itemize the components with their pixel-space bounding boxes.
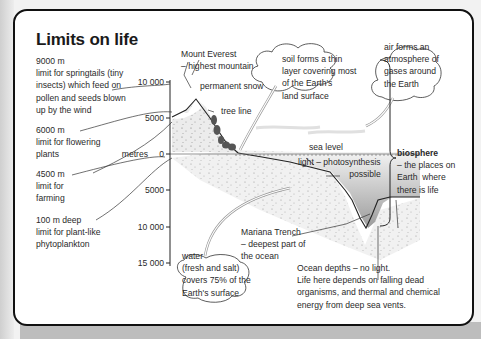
label-line: possible [298, 168, 381, 180]
label-tree-line: tree line [221, 105, 252, 117]
note-line: limit for springtails (tiny [36, 67, 126, 79]
note-line: limit for flowering [36, 136, 100, 148]
note-line: farming [36, 192, 65, 204]
axis-unit: metres [122, 149, 148, 159]
bubble-line: layer covering most [282, 65, 357, 77]
bubble-line: of the Earth's [282, 77, 357, 89]
definition-line: Earth where [397, 171, 455, 183]
bubble-line: atmosphere of [384, 53, 439, 65]
note-heading: 6000 m [36, 124, 100, 136]
note-heading: 100 m deep [36, 214, 100, 226]
axis-tick-5000-up: 5000 [145, 113, 164, 123]
bubble-water: water (fresh and salt) covers 75% of the… [182, 250, 251, 299]
note-line: up by the wind [36, 104, 126, 116]
bubble-air: air forms an atmosphere of gases around … [384, 41, 439, 90]
note-heading: 4500 m [36, 168, 65, 180]
bubble-line: gases around [384, 65, 439, 77]
label-line: – highest mountain [181, 60, 254, 72]
label-sea-level: sea level [309, 141, 343, 153]
label-permanent-snow: permanent snow [200, 80, 264, 92]
note-line: insects) which feed on [36, 79, 126, 91]
bubble-line: water [182, 250, 251, 262]
axis-tick-10000-down: 10 000 [138, 222, 164, 232]
label-line: Mount Everest [181, 48, 254, 60]
label-line: Mariana Trench [241, 226, 306, 238]
label-line: – deepest part of [241, 238, 306, 250]
label-line: Ocean depths – no light. [297, 262, 440, 274]
note-4500m: 4500 m limit for farming [36, 168, 65, 205]
label-mount-everest: Mount Everest – highest mountain [181, 48, 254, 72]
bubble-line: Earth's surface [182, 287, 251, 299]
label-line: organisms, and thermal and chemical [297, 286, 440, 298]
note-6000m: 6000 m limit for flowering plants [36, 124, 100, 161]
label-line: Life here depends on falling dead [297, 274, 440, 286]
biosphere-term: biosphere [397, 147, 455, 159]
definition-line: – the places on [397, 159, 455, 171]
label-line: energy from deep sea vents. [297, 299, 440, 311]
label-line: light – photosynthesis [298, 156, 381, 168]
bubble-line: air forms an [384, 41, 439, 53]
axis-tick-0: 0 [159, 149, 164, 159]
page-title: Limits on life [36, 30, 138, 50]
note-line: phytoplankton [36, 238, 100, 250]
bubble-line: soil forms a thin [282, 53, 357, 65]
bubble-line: the Earth [384, 78, 439, 90]
label-light-zone: light – photosynthesis possible [298, 156, 381, 180]
bubble-soil: soil forms a thin layer covering most of… [282, 53, 357, 102]
label-ocean-depths: Ocean depths – no light. Life here depen… [297, 262, 440, 311]
axis-tick-5000-down: 5000 [145, 185, 164, 195]
bubble-line: (fresh and salt) [182, 262, 251, 274]
note-100m-deep: 100 m deep limit for plant-like phytopla… [36, 214, 100, 251]
axis-tick-15000-down: 15 000 [138, 258, 164, 268]
note-heading: 9000 m [36, 55, 126, 67]
note-line: pollen and seeds blown [36, 92, 126, 104]
note-9000m: 9000 m limit for springtails (tiny insec… [36, 55, 126, 116]
bubble-line: covers 75% of the [182, 274, 251, 286]
note-line: limit for [36, 180, 65, 192]
note-line: plants [36, 148, 100, 160]
biosphere-definition: biosphere – the places on Earth where th… [397, 147, 455, 196]
bubble-line: land surface [282, 90, 357, 102]
definition-line: there is life [397, 184, 455, 196]
note-line: limit for plant-like [36, 226, 100, 238]
axis-tick-10000-up: 10 000 [138, 77, 164, 87]
